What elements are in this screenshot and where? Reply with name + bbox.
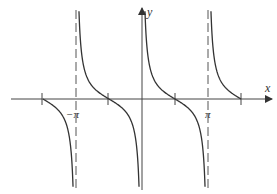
x-axis-label: x (264, 81, 271, 95)
cot-branch-3 (211, 11, 241, 99)
tick-label-pi: π (205, 108, 211, 120)
y-axis-label: y (146, 5, 153, 19)
cotangent-graph: x y −π π (0, 0, 277, 194)
tick-label-neg-pi: −π (66, 108, 79, 120)
